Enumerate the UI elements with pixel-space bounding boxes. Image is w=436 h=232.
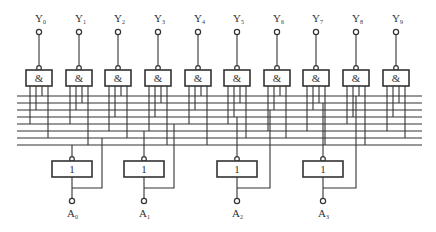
- input-pin-icon: [141, 198, 146, 203]
- buffer-symbol: 1: [234, 163, 240, 175]
- input-buffer-array: 1A01A11A21A3: [52, 96, 356, 220]
- and-symbol: &: [75, 72, 84, 84]
- input-label: A: [139, 207, 147, 219]
- output-label: Y: [194, 12, 202, 24]
- output-label-subscript: 8: [360, 19, 363, 25]
- input-label: A: [67, 207, 75, 219]
- and-gate-y6: Y6&: [264, 12, 290, 138]
- output-pin-icon: [313, 29, 318, 34]
- and-symbol: &: [35, 72, 44, 84]
- and-gate-y0: Y0&: [26, 12, 52, 138]
- output-label: Y: [233, 12, 241, 24]
- input-label-subscript: 2: [240, 214, 243, 220]
- input-buffer-a3: 1A3: [303, 96, 356, 220]
- output-label: Y: [352, 12, 360, 24]
- output-pin-icon: [195, 29, 200, 34]
- address-bus: [17, 96, 422, 145]
- and-gate-y4: Y4&: [185, 12, 211, 145]
- and-symbol: &: [392, 72, 401, 84]
- and-gate-array: Y0&Y1&Y2&Y3&Y4&Y5&Y6&Y7&Y8&Y9&: [26, 12, 409, 145]
- and-symbol: &: [233, 72, 242, 84]
- output-label: Y: [312, 12, 320, 24]
- input-label: A: [232, 207, 240, 219]
- output-label-subscript: 1: [83, 19, 86, 25]
- output-label: Y: [114, 12, 122, 24]
- output-pin-icon: [234, 29, 239, 34]
- input-label-subscript: 1: [147, 214, 150, 220]
- and-symbol: &: [154, 72, 163, 84]
- and-gate-y3: Y3&: [145, 12, 171, 145]
- and-symbol: &: [273, 72, 282, 84]
- output-pin-icon: [353, 29, 358, 34]
- and-symbol: &: [114, 72, 123, 84]
- and-symbol: &: [352, 72, 361, 84]
- output-label: Y: [154, 12, 162, 24]
- buffer-symbol: 1: [141, 163, 147, 175]
- output-pin-icon: [115, 29, 120, 34]
- output-label-subscript: 5: [241, 19, 244, 25]
- and-gate-y2: Y2&: [105, 12, 131, 138]
- output-pin-icon: [393, 29, 398, 34]
- and-symbol: &: [312, 72, 321, 84]
- output-pin-icon: [274, 29, 279, 34]
- input-label-subscript: 3: [326, 214, 329, 220]
- and-gate-y7: Y7&: [303, 12, 329, 145]
- output-label-subscript: 9: [400, 19, 403, 25]
- input-pin-icon: [69, 198, 74, 203]
- input-buffer-a2: 1A2: [217, 110, 270, 220]
- input-label: A: [318, 207, 326, 219]
- output-label-subscript: 4: [202, 19, 205, 25]
- buffer-symbol: 1: [69, 163, 75, 175]
- output-pin-icon: [155, 29, 160, 34]
- input-pin-icon: [320, 198, 325, 203]
- input-pin-icon: [234, 198, 239, 203]
- and-gate-y9: Y9&: [383, 12, 409, 138]
- output-label-subscript: 7: [320, 19, 323, 25]
- output-label-subscript: 0: [43, 19, 46, 25]
- input-buffer-a0: 1A0: [52, 138, 102, 220]
- output-label: Y: [273, 12, 281, 24]
- output-label-subscript: 2: [122, 19, 125, 25]
- output-label: Y: [75, 12, 83, 24]
- output-label: Y: [392, 12, 400, 24]
- and-symbol: &: [194, 72, 203, 84]
- buffer-symbol: 1: [320, 163, 326, 175]
- and-gate-y1: Y1&: [66, 12, 92, 145]
- output-pin-icon: [36, 29, 41, 34]
- output-label: Y: [35, 12, 43, 24]
- decoder-circuit-diagram: Y0&Y1&Y2&Y3&Y4&Y5&Y6&Y7&Y8&Y9& 1A01A11A2…: [0, 0, 436, 232]
- input-label-subscript: 0: [75, 214, 78, 220]
- output-label-subscript: 3: [162, 19, 165, 25]
- output-label-subscript: 6: [281, 19, 284, 25]
- output-pin-icon: [76, 29, 81, 34]
